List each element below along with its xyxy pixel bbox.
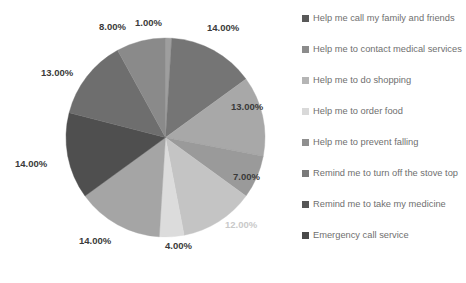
legend-swatch-icon-5 <box>302 139 309 146</box>
legend-label-3: Help me to do shopping <box>313 74 411 86</box>
legend-swatch-icon-2 <box>302 46 309 53</box>
legend-item-remind-me-to-take-my-medicine[interactable]: Remind me to take my medicine <box>302 198 462 210</box>
legend-item-help-me-to-contact-medical-services[interactable]: Help me to contact medical services <box>302 43 462 55</box>
slice-label-10: 8.00% <box>99 21 126 32</box>
legend-swatch-icon-7 <box>302 201 309 208</box>
slice-label-7: 14.00% <box>79 235 111 246</box>
slice-label-5: 12.00% <box>225 219 257 230</box>
slice-label-6: 4.00% <box>165 240 192 251</box>
slice-label-1: 1.00% <box>135 17 162 28</box>
slice-label-4: 7.00% <box>233 171 260 182</box>
legend-item-remind-me-to-turn-off-the-stove-top[interactable]: Remind me to turn off the stove top <box>302 167 462 179</box>
slice-label-3: 13.00% <box>231 101 263 112</box>
legend-item-help-me-call-my-family-and-friends[interactable]: Help me call my family and friends <box>302 12 462 24</box>
chart-legend: Help me call my family and friends Help … <box>302 12 466 274</box>
legend-label-8: Emergency call service <box>313 229 409 241</box>
pie-plot-area: 1.00% 14.00% 13.00% 7.00% 12.00% 4.00% 1… <box>0 0 296 283</box>
pie-chart: 1.00% 14.00% 13.00% 7.00% 12.00% 4.00% 1… <box>0 0 466 283</box>
legend-label-1: Help me call my family and friends <box>313 12 455 24</box>
legend-label-5: Help me to prevent falling <box>313 136 418 148</box>
legend-label-6: Remind me to turn off the stove top <box>313 167 458 179</box>
legend-item-help-me-to-order-food[interactable]: Help me to order food <box>302 105 462 117</box>
legend-swatch-icon-4 <box>302 108 309 115</box>
legend-swatch-icon-1 <box>302 15 309 22</box>
legend-swatch-icon-3 <box>302 77 309 84</box>
slice-label-8: 14.00% <box>15 158 47 169</box>
legend-item-help-me-to-do-shopping[interactable]: Help me to do shopping <box>302 74 462 86</box>
legend-label-4: Help me to order food <box>313 105 403 117</box>
slice-label-2: 14.00% <box>207 22 239 33</box>
legend-item-emergency-call-service[interactable]: Emergency call service <box>302 229 462 241</box>
slice-label-9: 13.00% <box>41 67 73 78</box>
legend-swatch-icon-6 <box>302 170 309 177</box>
legend-label-2: Help me to contact medical services <box>313 43 462 55</box>
pie-slices-group <box>66 38 265 237</box>
pie-slices-svg <box>0 0 296 283</box>
legend-swatch-icon-8 <box>302 232 309 239</box>
legend-item-help-me-to-prevent-falling[interactable]: Help me to prevent falling <box>302 136 462 148</box>
legend-label-7: Remind me to take my medicine <box>313 198 446 210</box>
